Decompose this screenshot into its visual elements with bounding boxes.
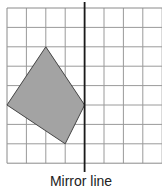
shaded-quadrilateral (7, 47, 85, 144)
mirror-line-label: Mirror line (0, 173, 162, 189)
reflection-diagram (0, 0, 162, 172)
